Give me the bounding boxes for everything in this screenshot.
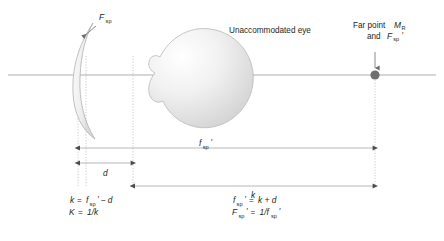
equation-left-1-rhs-tail: − d [101,195,113,205]
equation-right-2-lhs-sub: sp [238,213,244,219]
spectacle-lens-shape [73,23,95,139]
equation-left-2-lhs: K [69,207,75,217]
far-point-label-line2-base: F [387,31,393,41]
far-point-label-line2-prime: ′ [402,30,404,40]
equation-right-2-rhs-sub: sp [271,213,277,219]
equation-right-1-rhs-tail: k + d [258,195,277,205]
far-point-label-line2-sub: sp [393,36,399,42]
spectacle-focus-label: F sp [99,12,112,24]
equation-right-1-lhs-prime: ′ [244,194,246,204]
equation-block-left: k = f sp ′ − d K = 1/k [69,194,113,217]
dimension-label-fsp-prime-mark: ′ [211,137,213,147]
equation-left-1-equals: = [77,196,82,205]
equation-right-1-lhs-sub: sp [237,201,243,207]
spectacle-focus-leader-arrow [83,26,96,37]
equation-right-2-rhs-base: 1/f [260,207,271,217]
far-point-label-line2-prefix: and [367,32,381,41]
equation-left-2: K = 1/k [69,207,99,217]
far-point-label: Far point M R and F sp ′ [353,20,406,42]
equation-left-2-rhs-tail: 1/k [87,207,99,217]
eye-globe-shape [149,29,254,128]
equation-right-2-lhs-base: F [232,207,238,217]
equation-right-1-equals: = [249,196,254,205]
equation-left-2-equals: = [78,208,83,217]
equation-right-2-equals: = [251,208,256,217]
spectacle-focus-label-base: F [99,12,105,22]
equation-block-right: f sp ′ = k + d F sp ′ = 1/f sp ′ [232,194,281,219]
dimension-label-fsp-sub: sp [203,144,209,150]
equation-left-1-lhs: k [70,195,75,205]
equation-right-2-lhs-prime: ′ [246,206,248,216]
equation-right-2: F sp ′ = 1/f sp ′ [232,206,281,219]
far-point-dot [370,70,379,79]
spectacle-focus-label-sub: sp [106,18,112,24]
equation-right-2-rhs-prime: ′ [279,206,281,216]
eye-label: Unaccommodated eye [229,26,311,35]
equation-left-1-rhs-sub: sp [90,201,96,207]
far-point-label-line1-prefix: Far point [353,21,386,30]
far-point-label-line1-base: M [394,20,401,30]
diagram-canvas: F sp Unaccommodated eye Far point M R an… [0,0,444,241]
dimension-label-d: d [103,168,108,178]
optics-diagram-figure: F sp Unaccommodated eye Far point M R an… [0,0,444,241]
equation-left-1-rhs-prime: ′ [97,194,99,204]
equation-left-1: k = f sp ′ − d [70,194,113,207]
